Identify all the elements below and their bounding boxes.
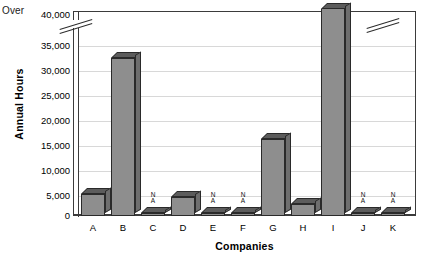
over-annotation-label: Over (2, 5, 24, 16)
x-tick-B: B (116, 222, 130, 233)
bar-G-side (285, 133, 291, 213)
bar-B-side (135, 52, 141, 213)
bar-D-side (195, 191, 201, 213)
bar-K-na-label: N A (387, 192, 399, 204)
bar-J-face (351, 213, 375, 216)
bar-series: N A N A (73, 11, 416, 216)
bar-C[interactable] (141, 213, 165, 216)
bar-F-face (231, 213, 255, 216)
bar-chart-figure: Over Annual Hours 40,000 35,000 30,000 2… (0, 0, 424, 260)
y-tick-5000: 5,000 (46, 191, 70, 201)
y-tick-35000: 35,000 (41, 41, 70, 51)
x-tick-F: F (236, 222, 250, 233)
y-tick-10000: 10,000 (41, 166, 70, 176)
bar-C-na-label: N A (147, 192, 159, 204)
y-tick-20000: 20,000 (41, 116, 70, 126)
bar-A-face (81, 194, 105, 216)
x-tick-A: A (86, 222, 100, 233)
bar-D-face (171, 197, 195, 216)
y-tick-30000: 30,000 (41, 66, 70, 76)
y-tick-25000: 25,000 (41, 91, 70, 101)
bar-K[interactable] (381, 213, 405, 216)
bar-H[interactable] (291, 204, 315, 216)
y-tick-15000: 15,000 (41, 141, 70, 151)
bar-B[interactable] (111, 58, 135, 216)
bar-G-face (261, 139, 285, 216)
bar-F[interactable] (231, 213, 255, 216)
bar-I-face (321, 9, 345, 216)
y-tick-0: 0 (65, 211, 70, 221)
x-tick-D: D (176, 222, 190, 233)
axis-break-mask-right (370, 19, 392, 27)
x-tick-E: E (206, 222, 220, 233)
x-tick-H: H (296, 222, 310, 233)
bar-J-na-label: N A (357, 192, 369, 204)
bar-B-face (111, 58, 135, 216)
x-axis-title: Companies (73, 240, 416, 252)
bar-A[interactable] (81, 194, 105, 216)
bar-F-na-label: N A (237, 192, 249, 204)
bar-K-face (381, 213, 405, 216)
x-tick-C: C (146, 222, 160, 233)
bar-G[interactable] (261, 139, 285, 216)
axis-break-mask-left (62, 20, 82, 28)
y-tick-40000: 40,000 (41, 10, 70, 20)
bar-I-side (345, 3, 351, 213)
x-tick-G: G (266, 222, 280, 233)
bar-H-face (291, 204, 315, 216)
bar-E-face (201, 213, 225, 216)
bar-E-na-label: N A (207, 192, 219, 204)
x-tick-K: K (386, 222, 400, 233)
bar-E[interactable] (201, 213, 225, 216)
bar-I[interactable] (321, 9, 345, 216)
bar-C-face (141, 213, 165, 216)
y-axis-tick-labels: 40,000 35,000 30,000 25,000 20,000 15,00… (24, 0, 70, 260)
bar-J[interactable] (351, 213, 375, 216)
bar-D[interactable] (171, 197, 195, 216)
x-tick-I: I (326, 222, 340, 233)
x-tick-J: J (356, 222, 370, 233)
x-axis-tick-labels: A B C D E F G H I J K (73, 222, 416, 236)
